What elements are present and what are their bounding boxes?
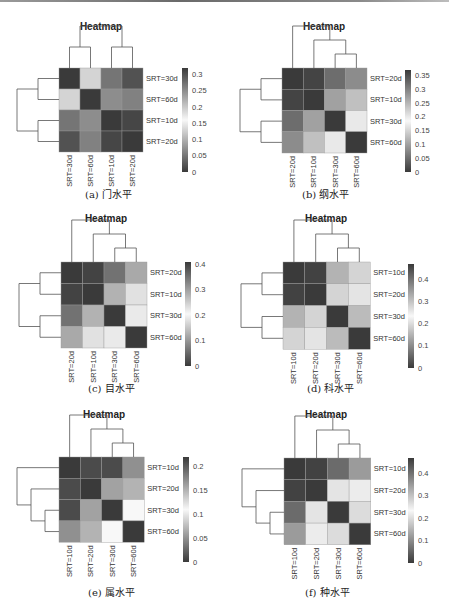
row-label: SRT=20d [374,486,406,495]
heatmap-cell [327,501,349,523]
heatmap-cell [327,523,349,545]
heatmap-cell [306,458,328,480]
column-label: SRT=30d [334,548,343,580]
caption-b: (b) 纲水平 [302,186,349,201]
row-label: SRT=60d [374,529,406,538]
heatmap-cell [284,501,306,523]
heatmap-cell [349,523,371,545]
caption-f: (f) 种水平 [305,584,350,599]
column-label: SRT=20d [312,548,321,580]
heatmap-panel-f: HeatmapSRT=10dSRT=20dSRT=30dSRT=60dSRT=1… [0,0,224,200]
colorbar-tick-label: 0.1 [418,536,428,545]
heatmap-cell [349,480,371,502]
heatmap-grid [284,458,371,545]
colorbar-tick-label: 0.3 [418,491,428,500]
heatmap-cell [349,458,371,480]
row-label: SRT=10d [374,464,406,473]
caption-e: (e) 属水平 [88,584,135,599]
heatmap-cell [284,523,306,545]
heatmap-cell [327,458,349,480]
column-label: SRT=60d [355,548,364,580]
heatmap-cell [306,480,328,502]
column-dendrogram [295,416,360,458]
row-label: SRT=30d [374,508,406,517]
column-label: SRT=10d [290,548,299,580]
heatmap-cell [284,480,306,502]
heatmap-cell [327,480,349,502]
heatmap-cell [306,523,328,545]
heatmap-cell [349,501,371,523]
heatmap-cell [284,458,306,480]
row-dendrogram [242,469,284,534]
colorbar [408,458,414,563]
heatmap-cell [306,501,328,523]
caption-c: (c) 目水平 [88,380,135,395]
caption-d: (d) 科水平 [307,380,354,395]
caption-a: (a) 门水平 [85,186,132,201]
colorbar-tick-label: 0.2 [418,514,428,523]
colorbar-tick-label: 0 [418,559,422,568]
colorbar-tick-label: 0.4 [418,469,428,478]
heatmap-title: Heatmap [305,409,347,420]
